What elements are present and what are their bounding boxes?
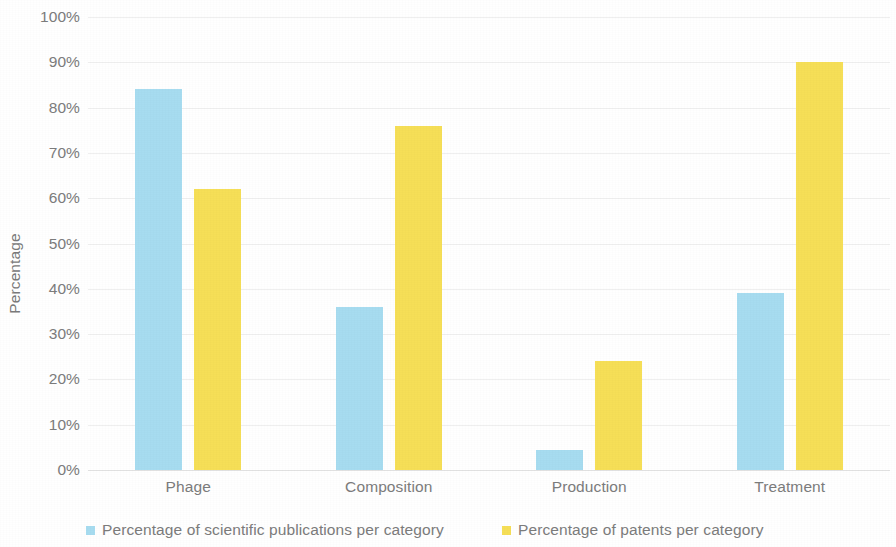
bar[interactable] xyxy=(135,89,182,470)
chart-legend: Percentage of scientific publications pe… xyxy=(0,521,896,547)
bar[interactable] xyxy=(737,293,784,470)
y-axis-tick: 30% xyxy=(49,325,80,343)
bar-series-container xyxy=(88,17,890,470)
bar-chart-figure: Percentage 100%90%80%70%60%50%40%30%20%1… xyxy=(0,0,896,547)
bar[interactable] xyxy=(796,62,843,470)
y-axis-tick: 10% xyxy=(49,416,80,434)
y-axis-tick: 80% xyxy=(49,99,80,117)
legend-swatch-icon xyxy=(86,526,95,535)
bar[interactable] xyxy=(194,189,241,470)
plot-area xyxy=(88,17,890,470)
y-axis-tick: 70% xyxy=(49,144,80,162)
gridline xyxy=(88,470,890,471)
y-axis-tick: 40% xyxy=(49,280,80,298)
y-axis-tick: 20% xyxy=(49,370,80,388)
y-axis-tick: 60% xyxy=(49,189,80,207)
x-axis-category-label: Phage xyxy=(166,478,211,496)
legend-label: Percentage of scientific publications pe… xyxy=(102,521,444,539)
x-axis-category-label: Composition xyxy=(345,478,432,496)
bar[interactable] xyxy=(336,307,383,470)
bar-group xyxy=(489,17,690,470)
bar-group xyxy=(289,17,490,470)
bar[interactable] xyxy=(595,361,642,470)
bar[interactable] xyxy=(395,126,442,470)
y-axis-tick: 50% xyxy=(49,235,80,253)
legend-label: Percentage of patents per category xyxy=(518,521,764,539)
y-axis-tick: 90% xyxy=(49,53,80,71)
legend-item[interactable]: Percentage of patents per category xyxy=(502,521,764,539)
bar-group xyxy=(88,17,289,470)
y-axis-tick: 100% xyxy=(40,8,80,26)
y-axis-tick-labels: 100%90%80%70%60%50%40%30%20%10%0% xyxy=(18,0,80,547)
x-axis-category-labels: PhageCompositionProductionTreatment xyxy=(88,478,890,504)
legend-item[interactable]: Percentage of scientific publications pe… xyxy=(86,521,444,539)
x-axis-category-label: Production xyxy=(552,478,627,496)
bar[interactable] xyxy=(536,450,583,470)
bar-group xyxy=(690,17,891,470)
y-axis-tick: 0% xyxy=(57,461,80,479)
x-axis-category-label: Treatment xyxy=(754,478,825,496)
legend-swatch-icon xyxy=(502,526,511,535)
